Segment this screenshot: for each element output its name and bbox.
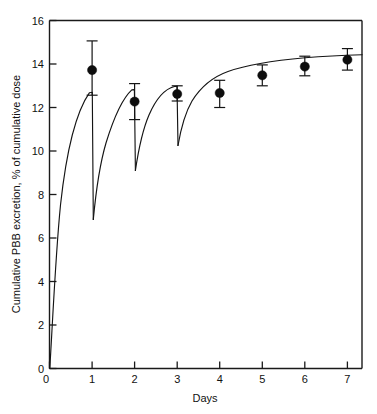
model-curve-segment-2 <box>93 90 135 220</box>
y-axis-title: Cumulative PBB excretion, % of cumulativ… <box>10 75 22 313</box>
model-curve-series <box>50 55 362 369</box>
data-point-marker <box>130 97 139 106</box>
chart-svg: 16 14 12 10 8 6 4 2 0 0 1 2 3 4 <box>0 0 377 414</box>
data-point-group <box>299 56 310 76</box>
model-curve-segment-1 <box>50 92 94 368</box>
data-point-marker <box>88 66 97 75</box>
x-tick-label: 2 <box>132 373 138 385</box>
data-point-group <box>257 65 268 86</box>
x-tick-label: 6 <box>302 373 308 385</box>
data-point-marker <box>300 62 309 71</box>
data-point-marker <box>215 88 224 97</box>
x-axis-title: Days <box>192 392 218 404</box>
x-tick-label: 7 <box>344 373 350 385</box>
x-axis-tick-labels: 0 1 2 3 4 5 6 7 <box>43 373 351 385</box>
y-tick-label: 16 <box>32 15 44 27</box>
model-curve-segment-4 <box>178 55 362 146</box>
data-point-group <box>172 86 183 101</box>
y-tick-label: 14 <box>32 58 44 70</box>
data-point-group <box>129 84 140 120</box>
data-point-marker <box>343 55 352 64</box>
data-point-group <box>87 41 98 95</box>
x-tick-label: 3 <box>174 373 180 385</box>
y-axis-tick-labels: 16 14 12 10 8 6 4 2 0 <box>32 15 44 375</box>
x-tick-label: 0 <box>43 373 49 385</box>
y-tick-label: 6 <box>38 232 44 244</box>
x-tick-label: 4 <box>217 373 223 385</box>
y-tick-label: 12 <box>32 102 44 114</box>
data-points-series <box>87 41 353 120</box>
data-point-marker <box>173 89 182 98</box>
model-curve-segment-3 <box>135 86 178 170</box>
data-point-group <box>214 80 225 107</box>
data-point-marker <box>258 71 267 80</box>
y-tick-label: 4 <box>38 276 44 288</box>
x-tick-label: 1 <box>89 373 95 385</box>
chart-figure: 16 14 12 10 8 6 4 2 0 0 1 2 3 4 <box>0 0 377 414</box>
x-tick-label: 5 <box>259 373 265 385</box>
data-point-group <box>342 49 353 71</box>
y-tick-label: 10 <box>32 145 44 157</box>
x-axis-ticks <box>50 362 348 369</box>
y-tick-label: 2 <box>38 319 44 331</box>
y-tick-label: 8 <box>38 189 44 201</box>
